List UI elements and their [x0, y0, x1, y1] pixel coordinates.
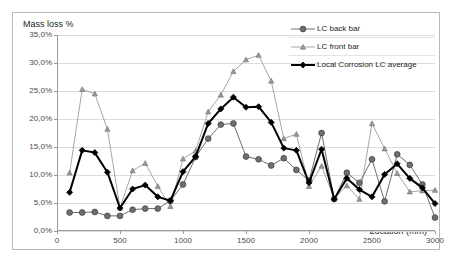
- data-point-marker: [67, 170, 72, 175]
- x-tick-mark: [372, 231, 373, 234]
- data-point-marker: [142, 206, 148, 212]
- data-point-marker: [80, 87, 85, 92]
- legend-label: LC back bar: [317, 24, 360, 33]
- data-point-marker: [105, 213, 111, 219]
- x-tick-mark: [246, 231, 247, 234]
- legend-label: Local Corrosion LC average: [317, 60, 417, 69]
- legend-item[interactable]: LC front bar: [289, 38, 435, 56]
- y-tick-label: 10,0%: [29, 171, 52, 179]
- legend-label: LC front bar: [317, 42, 359, 51]
- x-tick-label: 0: [55, 237, 59, 245]
- legend-marker-diamond-icon: [289, 58, 317, 72]
- y-axis-title: Mass loss %: [23, 19, 74, 30]
- series-lc-front-bar: [67, 53, 438, 211]
- data-point-marker: [256, 53, 261, 58]
- series-line: [70, 97, 435, 208]
- data-point-marker: [256, 156, 262, 162]
- data-point-marker: [205, 136, 211, 142]
- data-point-marker: [243, 57, 248, 62]
- data-point-marker: [319, 163, 324, 168]
- x-tick-mark: [435, 231, 436, 234]
- data-point-marker: [130, 207, 136, 213]
- data-point-marker: [231, 121, 237, 127]
- data-point-marker: [130, 168, 135, 173]
- legend-item[interactable]: Local Corrosion LC average: [289, 56, 435, 73]
- data-point-marker: [281, 155, 287, 161]
- x-tick-label: 1500: [237, 237, 255, 245]
- legend-marker-triangle-icon: [289, 40, 317, 54]
- data-point-marker: [79, 147, 85, 153]
- data-point-marker: [67, 210, 73, 216]
- data-point-marker: [218, 122, 224, 128]
- data-point-marker: [407, 162, 413, 168]
- data-point-marker: [155, 206, 161, 212]
- x-tick-label: 500: [113, 237, 126, 245]
- data-point-marker: [319, 130, 325, 136]
- chart-legend: LC back barLC front barLocal Corrosion L…: [289, 19, 435, 74]
- data-point-marker: [369, 121, 374, 126]
- x-tick-label: 3000: [426, 237, 444, 245]
- data-point-marker: [344, 183, 349, 188]
- data-point-marker: [294, 167, 300, 173]
- legend-marker-circle-icon: [289, 22, 317, 36]
- data-point-marker: [382, 198, 388, 204]
- caption-remnant: [6, 0, 447, 9]
- chart-screenshot: Mass loss % Location (mm) 0,0%5,0%10,0%1…: [0, 0, 453, 272]
- data-point-marker: [394, 151, 400, 157]
- x-tick-label: 1000: [174, 237, 192, 245]
- data-point-marker: [382, 146, 387, 151]
- chart-frame: Mass loss % Location (mm) 0,0%5,0%10,0%1…: [12, 12, 440, 250]
- data-point-marker: [180, 182, 186, 188]
- data-point-marker: [117, 213, 123, 219]
- legend-item[interactable]: LC back bar: [289, 20, 435, 38]
- x-tick-label: 2500: [363, 237, 381, 245]
- data-point-marker: [218, 92, 223, 97]
- data-point-marker: [143, 161, 148, 166]
- data-point-marker: [319, 146, 325, 152]
- data-point-marker: [168, 204, 173, 209]
- data-point-marker: [155, 184, 160, 189]
- data-point-marker: [293, 147, 299, 153]
- x-tick-mark: [120, 231, 121, 234]
- data-point-marker: [432, 215, 438, 221]
- y-tick-label: 25,0%: [29, 87, 52, 95]
- y-tick-label: 35,0%: [29, 31, 52, 39]
- data-point-marker: [294, 132, 299, 137]
- data-point-marker: [92, 91, 97, 96]
- x-tick-mark: [309, 231, 310, 234]
- series-line: [70, 123, 435, 217]
- y-tick-label: 30,0%: [29, 59, 52, 67]
- x-tick-mark: [57, 231, 58, 234]
- y-tick-label: 5,0%: [34, 199, 52, 207]
- data-point-marker: [79, 210, 85, 216]
- data-point-marker: [269, 78, 274, 83]
- x-tick-label: 2000: [300, 237, 318, 245]
- data-point-marker: [67, 189, 73, 195]
- data-point-marker: [92, 209, 98, 215]
- data-point-marker: [180, 156, 185, 161]
- x-tick-mark: [183, 231, 184, 234]
- y-tick-label: 15,0%: [29, 143, 52, 151]
- data-point-marker: [369, 156, 375, 162]
- data-point-marker: [105, 126, 110, 131]
- data-point-marker: [395, 171, 400, 176]
- data-point-marker: [357, 180, 363, 186]
- data-point-marker: [243, 154, 249, 160]
- data-point-marker: [268, 163, 274, 169]
- y-tick-label: 20,0%: [29, 115, 52, 123]
- y-tick-label: 0,0%: [34, 227, 52, 235]
- data-point-marker: [281, 136, 286, 141]
- data-point-marker: [344, 170, 350, 176]
